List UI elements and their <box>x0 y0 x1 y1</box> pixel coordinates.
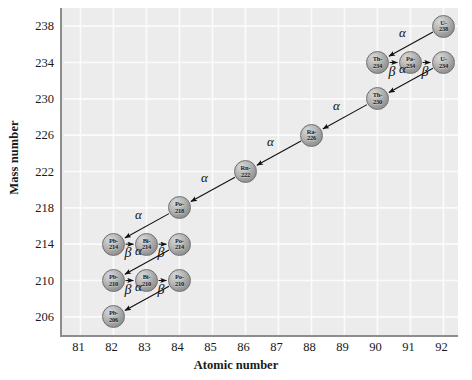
y-tick-234: 234 <box>10 57 54 69</box>
decay-series-chart: Mass number Atomic number 20621021421822… <box>0 0 472 380</box>
nuclide-node-po214[interactable]: Po-214 <box>168 233 191 256</box>
nuclide-node-rn222[interactable]: Rn-222 <box>234 160 257 183</box>
nuclide-node-po210[interactable]: Po-210 <box>168 269 191 292</box>
plot-area: U-238Th-234Pa-234U-234Th-230Ra-226Rn-222… <box>60 8 458 337</box>
nuclide-mass: 210 <box>175 281 184 288</box>
nuclide-mass: 234 <box>373 63 382 70</box>
x-tick-87: 87 <box>262 341 292 353</box>
emission-label-alpha-ra226: α <box>267 134 274 150</box>
x-axis-title: Atomic number <box>0 358 472 373</box>
nuclide-node-pb210[interactable]: Pb-210 <box>102 269 125 292</box>
nuclide-mass: 234 <box>406 63 415 70</box>
nuclide-node-u234[interactable]: U-234 <box>432 51 455 74</box>
nuclide-mass: 234 <box>439 63 448 70</box>
nuclide-mass: 222 <box>241 172 250 179</box>
x-tick-86: 86 <box>229 341 259 353</box>
nuclide-mass: 214 <box>175 244 184 251</box>
nuclide-mass: 214 <box>142 244 151 251</box>
y-tick-226: 226 <box>10 129 54 141</box>
nuclide-mass: 206 <box>109 317 118 324</box>
x-tick-90: 90 <box>361 341 391 353</box>
nuclide-node-u238[interactable]: U-238 <box>432 15 455 38</box>
x-tick-88: 88 <box>295 341 325 353</box>
emission-label-alpha-u234: α <box>399 61 406 77</box>
x-tick-92: 92 <box>427 341 457 353</box>
nuclide-mass: 210 <box>142 281 151 288</box>
x-tick-84: 84 <box>163 341 193 353</box>
nuclide-mass: 214 <box>109 244 118 251</box>
nuclide-node-th234[interactable]: Th-234 <box>366 51 389 74</box>
x-tick-81: 81 <box>64 341 94 353</box>
y-tick-230: 230 <box>10 93 54 105</box>
nuclide-mass: 218 <box>175 208 184 215</box>
emission-label-alpha-u238: α <box>399 25 406 41</box>
nuclide-node-pb214[interactable]: Pb-214 <box>102 233 125 256</box>
y-tick-218: 218 <box>10 202 54 214</box>
nuclide-mass: 230 <box>373 99 382 106</box>
x-tick-83: 83 <box>130 341 160 353</box>
y-tick-214: 214 <box>10 238 54 250</box>
nuclide-mass: 238 <box>439 26 448 33</box>
emission-label-alpha-po210: α <box>135 279 142 295</box>
emission-label-alpha-po214: α <box>135 243 142 259</box>
emission-label-alpha-po218: α <box>135 207 142 223</box>
emission-label-beta-pb210: β <box>125 282 132 298</box>
x-tick-89: 89 <box>328 341 358 353</box>
y-axis-title: Mass number <box>7 110 22 206</box>
nuclide-node-ra226[interactable]: Ra-226 <box>300 124 323 147</box>
x-tick-85: 85 <box>196 341 226 353</box>
emission-label-alpha-rn222: α <box>201 170 208 186</box>
y-tick-238: 238 <box>10 20 54 32</box>
nuclide-mass: 210 <box>109 281 118 288</box>
emission-label-beta-pa234: β <box>422 64 429 80</box>
nuclide-mass: 226 <box>307 135 316 142</box>
x-tick-82: 82 <box>97 341 127 353</box>
emission-label-beta-bi214: β <box>158 245 165 261</box>
x-tick-91: 91 <box>394 341 424 353</box>
emission-label-beta-th234: β <box>389 64 396 80</box>
y-tick-210: 210 <box>10 275 54 287</box>
y-tick-206: 206 <box>10 311 54 323</box>
emission-label-beta-bi210: β <box>158 282 165 298</box>
y-tick-222: 222 <box>10 166 54 178</box>
emission-label-alpha-th230: α <box>333 98 340 114</box>
emission-label-beta-pb214: β <box>125 245 132 261</box>
